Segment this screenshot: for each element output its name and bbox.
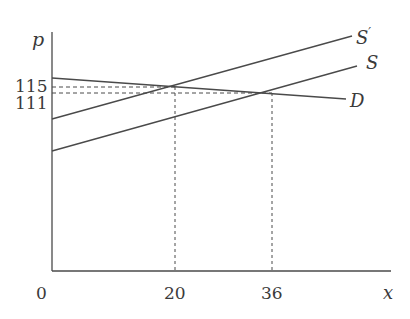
y-tick-111: 111	[15, 93, 47, 113]
origin-label: 0	[36, 283, 47, 303]
x-tick-36: 36	[261, 283, 283, 303]
curve-label-s: S	[366, 52, 378, 73]
x-tick-20: 20	[164, 283, 186, 303]
supply-demand-chart: p x 0 115 111 20 36 S′ S D	[0, 0, 410, 319]
supply-curve-s	[52, 66, 357, 151]
y-axis-label: p	[32, 28, 44, 50]
supply-curve-s-prime	[52, 36, 352, 119]
curve-label-s-prime: S′	[356, 26, 371, 48]
x-axis-label: x	[383, 282, 393, 303]
curve-label-d: D	[349, 90, 365, 111]
